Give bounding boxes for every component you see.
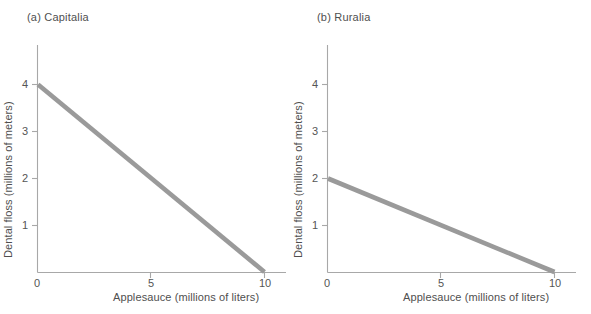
chart-panel-capitalia: (a) Capitalia 4 3 2 1 0 5 10 Applesauce … — [0, 0, 291, 314]
plot-area-ruralia — [290, 0, 581, 314]
y-axis-title-a: Dental floss (millions of meters) — [2, 101, 14, 258]
x-axis-title-b: Applesauce (millions of liters) — [403, 291, 549, 303]
x-tick-label-5-b: 5 — [431, 277, 451, 289]
figure-two-panel-ppf: (a) Capitalia 4 3 2 1 0 5 10 Applesauce … — [0, 0, 591, 314]
plot-area-capitalia — [0, 0, 291, 314]
y-tick-label-4-b: 4 — [304, 78, 318, 90]
x-tick-label-10-b: 10 — [545, 277, 565, 289]
x-tick-label-0-b: 0 — [317, 277, 337, 289]
y-tick-label-1-b: 1 — [304, 219, 318, 231]
y-tick-label-3-a: 3 — [14, 125, 28, 137]
x-tick-label-0-a: 0 — [27, 277, 47, 289]
x-tick-label-5-a: 5 — [141, 277, 161, 289]
y-axis-title-b: Dental floss (millions of meters) — [292, 101, 304, 258]
y-tick-label-2-b: 2 — [304, 172, 318, 184]
ppf-line-capitalia — [38, 85, 265, 273]
x-tick-label-10-a: 10 — [255, 277, 275, 289]
chart-panel-ruralia: (b) Ruralia 4 3 2 1 0 5 10 Applesauce (m… — [290, 0, 581, 314]
y-tick-label-4-a: 4 — [14, 78, 28, 90]
ppf-line-ruralia — [328, 179, 555, 273]
y-tick-label-1-a: 1 — [14, 219, 28, 231]
y-tick-label-3-b: 3 — [304, 125, 318, 137]
x-axis-title-a: Applesauce (millions of liters) — [113, 291, 259, 303]
y-tick-label-2-a: 2 — [14, 172, 28, 184]
